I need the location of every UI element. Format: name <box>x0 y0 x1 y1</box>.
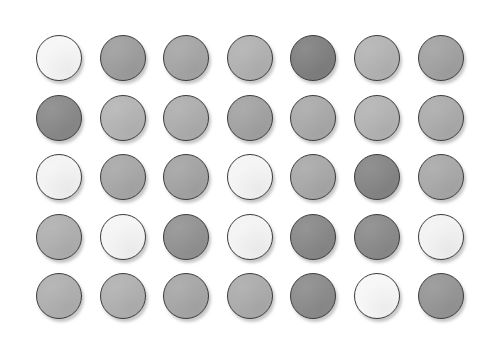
swatch-circle-r3c7[interactable] <box>418 154 464 200</box>
swatch-circle-r4c4[interactable] <box>227 214 273 260</box>
swatch-circle-r2c7[interactable] <box>418 95 464 141</box>
swatch-circle-r4c6[interactable] <box>354 214 400 260</box>
swatch-circle-r1c7[interactable] <box>418 35 464 81</box>
swatch-circle-r2c1[interactable] <box>36 95 82 141</box>
swatch-circle-r1c2[interactable] <box>100 35 146 81</box>
swatch-circle-r1c4[interactable] <box>227 35 273 81</box>
swatch-circle-r5c7[interactable] <box>418 273 464 319</box>
swatch-circle-r4c7[interactable] <box>418 214 464 260</box>
swatch-circle-r4c1[interactable] <box>36 214 82 260</box>
swatch-circle-r3c2[interactable] <box>100 154 146 200</box>
swatch-circle-r5c4[interactable] <box>227 273 273 319</box>
swatch-circle-r1c3[interactable] <box>163 35 209 81</box>
swatch-circle-r5c1[interactable] <box>36 273 82 319</box>
swatch-circle-r2c2[interactable] <box>100 95 146 141</box>
swatch-circle-r3c3[interactable] <box>163 154 209 200</box>
swatch-circle-r4c2[interactable] <box>100 214 146 260</box>
swatch-circle-r2c5[interactable] <box>290 95 336 141</box>
swatch-circle-r1c6[interactable] <box>354 35 400 81</box>
swatch-circle-r5c2[interactable] <box>100 273 146 319</box>
swatch-circle-r2c4[interactable] <box>227 95 273 141</box>
swatch-circle-r3c4[interactable] <box>227 154 273 200</box>
swatch-circle-r2c6[interactable] <box>354 95 400 141</box>
swatch-board <box>0 0 500 351</box>
swatch-circle-r1c5[interactable] <box>290 35 336 81</box>
swatch-circle-r4c3[interactable] <box>163 214 209 260</box>
swatch-circle-r5c6[interactable] <box>354 273 400 319</box>
swatch-circle-r3c6[interactable] <box>354 154 400 200</box>
swatch-circle-r5c5[interactable] <box>290 273 336 319</box>
swatch-grid <box>36 35 464 319</box>
swatch-circle-r2c3[interactable] <box>163 95 209 141</box>
swatch-circle-r1c1[interactable] <box>36 35 82 81</box>
swatch-circle-r4c5[interactable] <box>290 214 336 260</box>
swatch-circle-r5c3[interactable] <box>163 273 209 319</box>
swatch-circle-r3c5[interactable] <box>290 154 336 200</box>
swatch-circle-r3c1[interactable] <box>36 154 82 200</box>
